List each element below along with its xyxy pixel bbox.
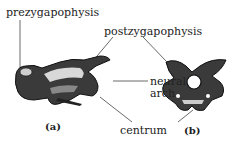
label-neural-arch-line2: arch [150,88,175,100]
label-postzygapophysis: postzygapophysis [104,26,202,38]
label-centrum: centrum [120,125,167,137]
vertebra-lateral-view [15,56,110,106]
caption-a: (a) [45,121,61,132]
caption-b: (b) [184,125,200,136]
label-prezygapophysis: prezygapophysis [6,7,99,19]
vertebra-diagram [0,0,246,141]
